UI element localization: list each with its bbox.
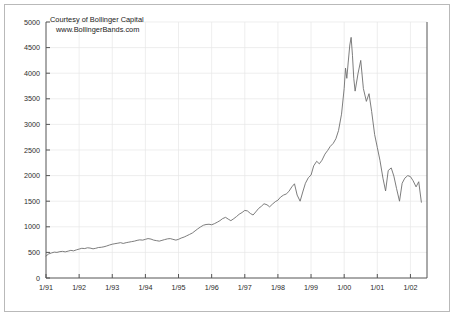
y-tick-label: 3000 [24,120,40,129]
y-tick-label: 500 [28,248,40,257]
y-tick-label: 1500 [24,197,40,206]
x-tick-label: 1/93 [105,283,119,292]
credit-line-1-text: Courtesy of Bollinger Capital [50,15,144,24]
horizontal-gridlines [46,22,427,252]
x-axis-tickmarks [46,274,410,278]
x-tick-label: 1/00 [337,283,351,292]
x-tick-label: 1/92 [72,283,86,292]
y-tick-label: 4000 [24,69,40,78]
x-tick-label: 1/95 [172,283,186,292]
x-axis-tick-labels: 1/911/921/931/941/951/961/971/981/991/00… [39,283,417,292]
y-tick-label: 3500 [24,94,40,103]
x-tick-label: 1/97 [238,283,252,292]
x-tick-label: 1/98 [271,283,285,292]
y-tick-label: 0 [36,274,40,283]
y-axis-tickmarks [46,22,50,278]
x-tick-label: 1/94 [138,283,152,292]
y-tick-label: 2000 [24,171,40,180]
y-axis-tick-labels: 0500100015002000250030003500400045005000 [24,18,40,283]
data-series-line [46,37,421,256]
x-tick-label: 1/01 [370,283,384,292]
x-tick-label: 1/91 [39,283,53,292]
x-tick-label: 1/99 [304,283,318,292]
chart-plot-area: 0500100015002000250030003500400045005000… [0,0,454,316]
y-tick-label: 4500 [24,43,40,52]
credit-line-2-text: www.BollingerBands.com [55,25,139,34]
y-tick-label: 5000 [24,18,40,27]
y-tick-label: 1000 [24,222,40,231]
y-tick-label: 2500 [24,146,40,155]
x-tick-label: 1/96 [205,283,219,292]
x-tick-label: 1/02 [403,283,417,292]
chart-screenshot: 0500100015002000250030003500400045005000… [0,0,454,316]
